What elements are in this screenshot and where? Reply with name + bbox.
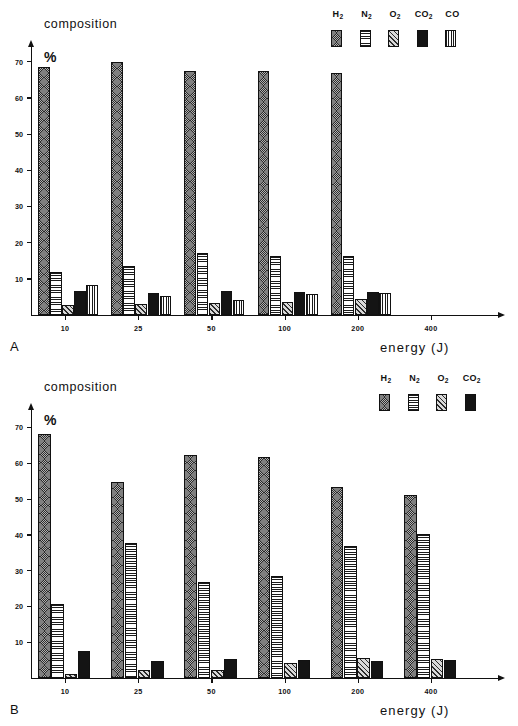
legend-label-o2: O2 [381,9,409,19]
x-axis-tick [431,316,432,320]
bar-o2-25 [138,670,151,678]
legend-label-o2: O2 [429,373,457,383]
panel-letter-label: B [10,702,19,717]
bar-h2-100 [258,71,270,315]
y-axis-tick-label: 50 [7,130,23,139]
chart-a-plot-area: 10203040506070composition%energy (J)A102… [0,0,518,362]
x-axis-tick [138,679,139,683]
bar-h2-10 [38,434,51,678]
x-axis-line [31,315,498,316]
bar-h2-25 [111,62,123,315]
x-axis-tick-label: 200 [345,324,371,333]
legend-swatch-n2 [408,394,419,411]
bar-n2-50 [198,582,211,678]
y-axis-tick [27,134,31,135]
bar-h2-10 [38,67,50,315]
x-axis-tick [285,679,286,683]
bar-n2-25 [125,543,138,678]
bar-n2-50 [197,253,209,315]
bar-h2-50 [184,455,197,678]
legend-swatch-o2 [388,30,399,47]
y-axis-title: composition [44,17,117,31]
x-axis-tick-label: 25 [125,324,151,333]
bar-co-10 [86,285,98,315]
legend-swatch-co2 [465,394,476,411]
y-axis-tick [27,534,31,535]
bar-h2-100 [258,457,271,678]
bar-n2-10 [51,604,64,678]
y-axis-line [31,47,32,316]
y-axis-tick-label: 60 [7,459,23,468]
x-axis-tick [285,316,286,320]
y-axis-arrow-icon [28,40,34,47]
x-axis-tick-label: 400 [418,324,444,333]
bar-co2-100 [294,292,306,315]
y-axis-arrow-icon [28,403,34,410]
y-axis-line [31,410,32,679]
y-axis-tick [27,61,31,62]
x-axis-tick-label: 100 [272,687,298,696]
y-axis-tick [27,170,31,171]
bar-co2-100 [298,660,311,678]
y-axis-tick [27,499,31,500]
legend-swatch-co [445,30,456,47]
legend-label-co2: CO2 [458,373,486,383]
bar-co2-25 [151,661,164,678]
legend-label-co: CO [438,9,466,19]
bar-co-100 [306,294,318,315]
bar-o2-10 [65,674,78,678]
y-axis-tick-label: 50 [7,495,23,504]
y-axis-tick [27,427,31,428]
bar-n2-10 [50,272,62,315]
bar-co2-50 [221,291,233,315]
y-axis-unit-label: % [44,49,56,65]
x-axis-title: energy (J) [380,703,450,718]
x-axis-tick-label: 200 [345,687,371,696]
x-axis-tick-label: 100 [272,324,298,333]
bar-n2-200 [344,546,357,678]
bar-h2-25 [111,482,124,678]
y-axis-tick-label: 40 [7,531,23,540]
y-axis-tick [27,463,31,464]
legend-swatch-co2 [417,30,428,47]
legend-label-n2: N2 [353,9,381,19]
x-axis-tick [358,316,359,320]
x-axis-line [31,678,498,679]
bar-co2-10 [74,291,86,315]
y-axis-tick-label: 70 [7,58,23,67]
bar-h2-400 [404,495,417,678]
legend-swatch-o2 [436,394,447,411]
bar-co2-200 [367,292,379,315]
x-axis-tick [65,316,66,320]
bar-co2-25 [148,293,160,315]
x-axis-tick [431,679,432,683]
panel-b: 10203040506070composition%energy (J)B102… [0,362,518,726]
x-axis-tick-label: 10 [52,324,78,333]
panel-letter-label: A [10,339,19,354]
bar-co2-10 [78,651,91,678]
bar-n2-100 [271,576,284,678]
y-axis-tick-label: 30 [7,202,23,211]
x-axis-tick-label: 400 [418,687,444,696]
x-axis-tick [211,679,212,683]
x-axis-arrow-icon [498,675,505,681]
x-axis-tick-label: 10 [52,687,78,696]
legend-swatch-h2 [379,394,390,411]
y-axis-tick [27,242,31,243]
bar-co-25 [160,296,172,315]
legend-swatch-h2 [331,30,342,47]
x-axis-title: energy (J) [380,340,450,355]
y-axis-tick [27,97,31,98]
x-axis-arrow-icon [498,312,505,318]
y-axis-tick [27,606,31,607]
y-axis-tick [27,206,31,207]
x-axis-tick [138,316,139,320]
bar-o2-100 [284,663,297,678]
bar-o2-200 [355,299,367,315]
y-axis-tick [27,642,31,643]
y-axis-tick-label: 60 [7,94,23,103]
legend-label-h2: H2 [372,373,400,383]
y-axis-tick-label: 20 [7,602,23,611]
x-axis-tick-label: 50 [198,687,224,696]
bar-o2-10 [62,305,74,315]
